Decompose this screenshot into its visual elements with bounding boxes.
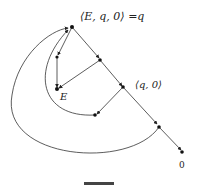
node-d (157, 125, 161, 129)
label-end: 0 (179, 160, 185, 170)
node-a (98, 58, 102, 62)
inner-return-arc (45, 30, 95, 115)
figure-caption (84, 182, 114, 185)
main-diagonal-edge (72, 27, 181, 150)
node-mid (121, 85, 125, 89)
label-mid: ⟨q, 0⟩ (135, 79, 162, 90)
node-c (93, 113, 97, 117)
outer-return-arc (11, 28, 159, 153)
label-e: E (59, 91, 68, 102)
state-diagram: ⟨E, q, 0⟩ =q ⟨q, 0⟩ E 0 (0, 0, 197, 187)
node-top (70, 25, 74, 29)
label-top: ⟨E, q, 0⟩ =q (80, 10, 144, 23)
node-b (55, 55, 58, 58)
node-end (180, 150, 184, 154)
node-e (55, 87, 59, 91)
nodes (55, 25, 184, 154)
